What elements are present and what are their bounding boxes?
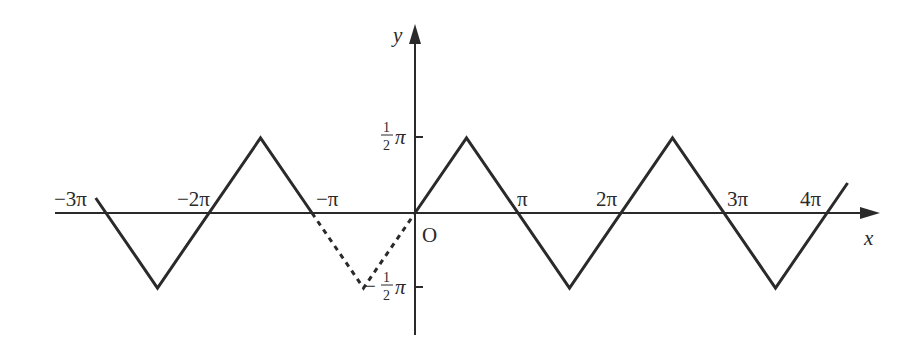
svg-text:π: π [395,125,406,149]
svg-text:−: − [364,274,376,298]
y-axis-label: y [391,23,403,47]
svg-text:2: 2 [383,138,390,153]
x-tick-label-4pi: 4π [800,187,822,211]
origin-label: O [422,223,437,247]
x-tick-label-3pi: 3π [727,187,749,211]
triangle-wave-graph: y x O −3π −2π −π π 2π 3π 4π 1 2 π − 1 2 … [0,0,916,348]
x-tick-label-neg2pi: −2π [177,187,210,211]
y-axis-arrow-icon [409,24,421,44]
x-axis-label: x [863,226,874,250]
svg-text:1: 1 [383,120,390,135]
svg-text:1: 1 [383,270,390,285]
svg-text:2: 2 [383,288,390,303]
svg-text:π: π [395,275,406,299]
y-tick-label-half-pi: 1 2 π [381,120,406,153]
x-axis-arrow-icon [860,207,880,219]
x-tick-label-pi: π [517,187,528,211]
y-tick-label-neg-half-pi: − 1 2 π [364,270,406,303]
x-tick-label-negpi: −π [316,187,339,211]
x-tick-label-neg3pi: −3π [54,187,87,211]
x-tick-label-2pi: 2π [596,187,618,211]
